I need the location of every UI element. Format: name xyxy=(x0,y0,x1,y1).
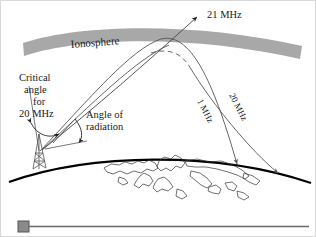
ionosphere-propagation-diagram: Ionosphere xyxy=(1,1,316,237)
critical-angle-label-line4: 20 MHz xyxy=(19,108,54,119)
ionosphere-band xyxy=(23,28,302,59)
critical-angle-label-line2: angle xyxy=(24,84,47,95)
earth-surface xyxy=(9,160,311,183)
critical-angle-label-line1: Critical xyxy=(19,72,51,83)
antenna-tower xyxy=(33,134,46,169)
ray-21mhz-label: 21 MHz xyxy=(207,9,242,20)
angle-of-radiation-label-line2: radiation xyxy=(86,121,124,132)
angle-of-radiation-label-line1: Angle of xyxy=(86,109,124,120)
scale-marker-square xyxy=(18,221,29,232)
critical-angle-label-line3: for xyxy=(33,96,46,107)
ray-20mhz-label: 20 MHz xyxy=(227,91,249,122)
figure-root: Ionosphere xyxy=(0,0,316,237)
ionosphere-label: Ionosphere xyxy=(70,34,120,50)
footer-scale xyxy=(18,221,309,232)
ray-1mhz xyxy=(40,38,237,164)
